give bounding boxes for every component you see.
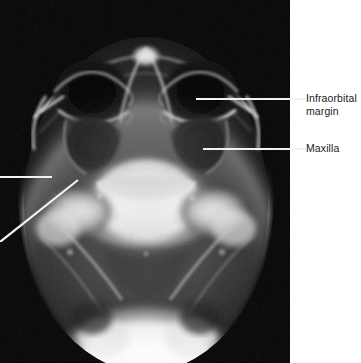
leader-line-left-diagonal [0,178,80,242]
label-maxilla: Maxilla [306,142,361,155]
radiograph-figure: Infraorbital margin Maxilla [0,0,361,363]
leader-line-infraorbital-margin [196,98,308,100]
label-infraorbital-margin: Infraorbital margin [306,92,361,117]
leader-line-maxilla [203,148,308,150]
